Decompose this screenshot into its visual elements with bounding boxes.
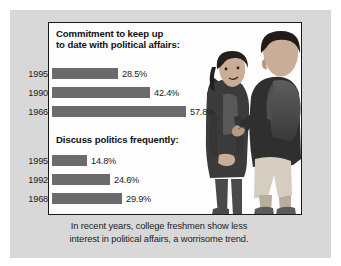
- group-1-heading-line2: to date with political affairs:: [56, 39, 180, 50]
- bar-value-label: 29.9%: [126, 194, 151, 204]
- bar-value-label: 57.8%: [190, 107, 215, 117]
- bar: [52, 106, 186, 117]
- bar-value-label: 42.4%: [154, 88, 179, 98]
- caption-line1: In recent years, college freshmen show l…: [71, 221, 248, 231]
- bar: [52, 155, 87, 166]
- bar-year-label: 1990: [8, 88, 48, 98]
- chart-caption: In recent years, college freshmen show l…: [14, 220, 304, 245]
- group-2-heading-line1: Discuss politics frequently:: [56, 134, 178, 145]
- bar: [52, 174, 110, 185]
- group-2-heading: Discuss politics frequently:: [56, 134, 246, 145]
- group-1-heading-line1: Commitment to keep up: [56, 28, 163, 39]
- bar-year-label: 1968: [8, 194, 48, 204]
- bar-value-label: 28.5%: [122, 69, 147, 79]
- chart-plot-area: [48, 22, 302, 215]
- bar-year-label: 1992: [8, 175, 48, 185]
- bar-value-label: 14.8%: [91, 156, 116, 166]
- bar-year-label: 1995: [8, 69, 48, 79]
- caption-line2: interest in political affairs, a worriso…: [70, 234, 249, 244]
- infographic-root: Commitment to keep up to date with polit…: [0, 0, 341, 266]
- bar: [52, 193, 122, 204]
- bar-value-label: 24.6%: [114, 175, 139, 185]
- group-1-heading: Commitment to keep up to date with polit…: [56, 28, 216, 51]
- bar: [52, 68, 118, 79]
- bar: [52, 87, 150, 98]
- bar-year-label: 1966: [8, 107, 48, 117]
- bar-year-label: 1995: [8, 156, 48, 166]
- students-illustration: [189, 23, 301, 215]
